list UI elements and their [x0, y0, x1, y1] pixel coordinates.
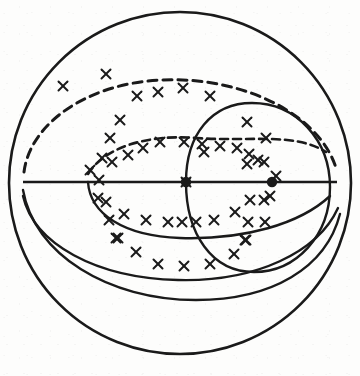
- cross-marker: [154, 260, 163, 269]
- cross-marker: [124, 151, 133, 160]
- cross-marker: [116, 116, 125, 125]
- cross-marker: [233, 144, 242, 153]
- cross-marker: [132, 248, 141, 257]
- cross-marker: [106, 134, 115, 143]
- lower-solid-arc-deep: [23, 190, 340, 300]
- cross-marker: [210, 216, 219, 225]
- cross-marker: [59, 82, 68, 91]
- cross-marker: [108, 158, 117, 167]
- cross-marker: [230, 250, 239, 259]
- cross-marker: [154, 88, 163, 97]
- great-circles-layer: [23, 80, 340, 300]
- figure-root: [0, 0, 360, 376]
- cross-marker: [244, 218, 253, 227]
- cross-marker: [178, 218, 187, 227]
- cross-marker: [206, 92, 215, 101]
- cross-marker: [245, 150, 254, 159]
- cross-marker: [164, 218, 173, 227]
- cross-marker: [243, 160, 252, 169]
- cross-marker: [200, 148, 209, 157]
- cross-marker: [180, 262, 189, 271]
- cross-marker: [179, 84, 188, 93]
- cross-marker: [180, 138, 189, 147]
- descending-node: [267, 177, 277, 187]
- cross-marker: [246, 196, 255, 205]
- cross-marker: [139, 144, 148, 153]
- cross-marker: [98, 154, 107, 163]
- cross-marker: [216, 142, 225, 151]
- sphere-projection-svg: [0, 0, 360, 376]
- lower-solid-arc-shallow: [88, 182, 330, 238]
- cross-marker: [133, 92, 142, 101]
- cross-marker: [242, 236, 251, 245]
- cross-marker: [120, 210, 129, 219]
- cross-marker: [206, 260, 215, 269]
- cross-marker: [261, 218, 270, 227]
- cross-marker: [102, 70, 111, 79]
- ascending-node: [181, 177, 191, 187]
- cross-marker: [243, 118, 252, 127]
- cross-marker: [142, 216, 151, 225]
- cross-marker: [231, 208, 240, 217]
- upper-dashed-great-circle-outer: [24, 80, 336, 172]
